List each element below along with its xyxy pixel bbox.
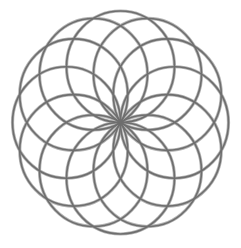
rosette-figure [0,0,241,248]
rosette-circles [13,11,229,234]
